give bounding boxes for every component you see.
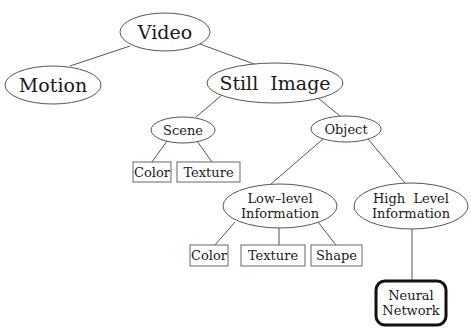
neural-network-label: Network: [382, 303, 439, 318]
low-level-label: Information: [241, 206, 320, 221]
node-object: Object: [311, 116, 381, 142]
motion-label: Motion: [19, 74, 87, 96]
edge-video-to-motion: [70, 46, 130, 66]
edge-object-to-low-level: [271, 139, 323, 184]
still-image-label: Still Image: [219, 72, 330, 94]
node-motion: Motion: [5, 66, 101, 104]
edge-scene-to-scene-color: [152, 141, 167, 162]
high-level-label: High Level: [373, 191, 449, 206]
edge-video-to-still-image: [200, 44, 254, 64]
video-label: Video: [137, 21, 192, 43]
node-high-level: High LevelInformation: [354, 183, 468, 229]
node-low-texture: Texture: [241, 245, 305, 266]
node-scene-texture: Texture: [177, 162, 240, 182]
low-level-label: Low–level: [247, 191, 312, 206]
node-low-color: Color: [190, 245, 228, 266]
edge-low-level-to-low-shape: [318, 222, 336, 245]
video-taxonomy-diagram: VideoMotionStill ImageSceneObjectColorTe…: [0, 0, 471, 332]
edge-scene-to-scene-texture: [197, 141, 212, 162]
low-color-label: Color: [191, 248, 228, 263]
neural-network-label: Neural: [388, 288, 434, 303]
scene-texture-label: Texture: [183, 165, 233, 180]
node-scene-color: Color: [133, 162, 171, 182]
scene-label: Scene: [163, 123, 203, 138]
node-still-image: Still Image: [207, 63, 343, 103]
edge-still-image-to-scene: [196, 95, 222, 117]
node-low-shape: Shape: [311, 245, 362, 266]
low-texture-label: Texture: [248, 248, 298, 263]
node-video: Video: [120, 13, 210, 51]
high-level-label: Information: [372, 206, 451, 221]
nodes: VideoMotionStill ImageSceneObjectColorTe…: [5, 13, 468, 325]
scene-color-label: Color: [134, 165, 171, 180]
object-label: Object: [324, 122, 368, 137]
node-neural-network: NeuralNetwork: [376, 281, 446, 325]
low-shape-label: Shape: [316, 248, 357, 263]
edge-object-to-high-level: [368, 139, 405, 183]
node-low-level: Low–levelInformation: [223, 184, 337, 228]
edge-low-level-to-low-color: [215, 222, 235, 245]
edge-still-image-to-object: [318, 98, 340, 116]
node-scene: Scene: [151, 117, 215, 143]
